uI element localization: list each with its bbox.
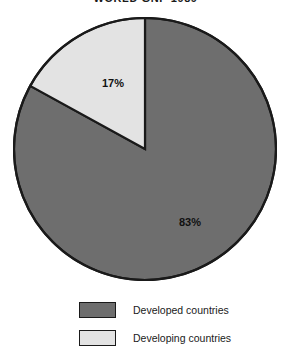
legend-label-developing: Developing countries: [133, 333, 231, 344]
legend-swatch-developing: [79, 330, 116, 346]
pie-graphic: 83% 17%: [13, 17, 277, 281]
legend-swatch-developed: [79, 302, 116, 318]
legend-item-developed: Developed countries: [79, 296, 269, 324]
legend-label-developed: Developed countries: [133, 305, 229, 316]
pie-label-developing: 17%: [102, 77, 124, 89]
pie-label-developed: 83%: [179, 216, 201, 228]
pie-svg: 83% 17%: [13, 17, 277, 281]
pie-chart-figure: WORLD GNP 1989 83% 17% Developed countri…: [0, 0, 291, 362]
legend-item-developing: Developing countries: [79, 324, 269, 352]
chart-legend: Developed countries Developing countries: [79, 296, 269, 352]
chart-title: WORLD GNP 1989: [0, 0, 291, 4]
